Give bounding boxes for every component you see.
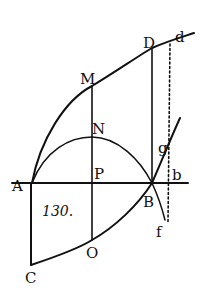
label-N: N <box>92 120 105 138</box>
label-b: b <box>172 166 182 184</box>
label-A: A <box>11 177 23 195</box>
label-O: O <box>86 244 98 262</box>
label-g: g <box>158 139 168 157</box>
label-C: C <box>25 269 36 287</box>
label-M: M <box>80 70 95 88</box>
dotted-line <box>168 44 170 222</box>
figure-number: 130. <box>42 203 73 219</box>
label-P: P <box>94 165 104 183</box>
label-B: B <box>143 193 154 211</box>
label-f: f <box>156 223 163 241</box>
label-D: D <box>143 34 155 52</box>
label-d: d <box>175 28 185 46</box>
geometry-figure: A P N M D d g b B f O C 130. <box>0 0 202 302</box>
